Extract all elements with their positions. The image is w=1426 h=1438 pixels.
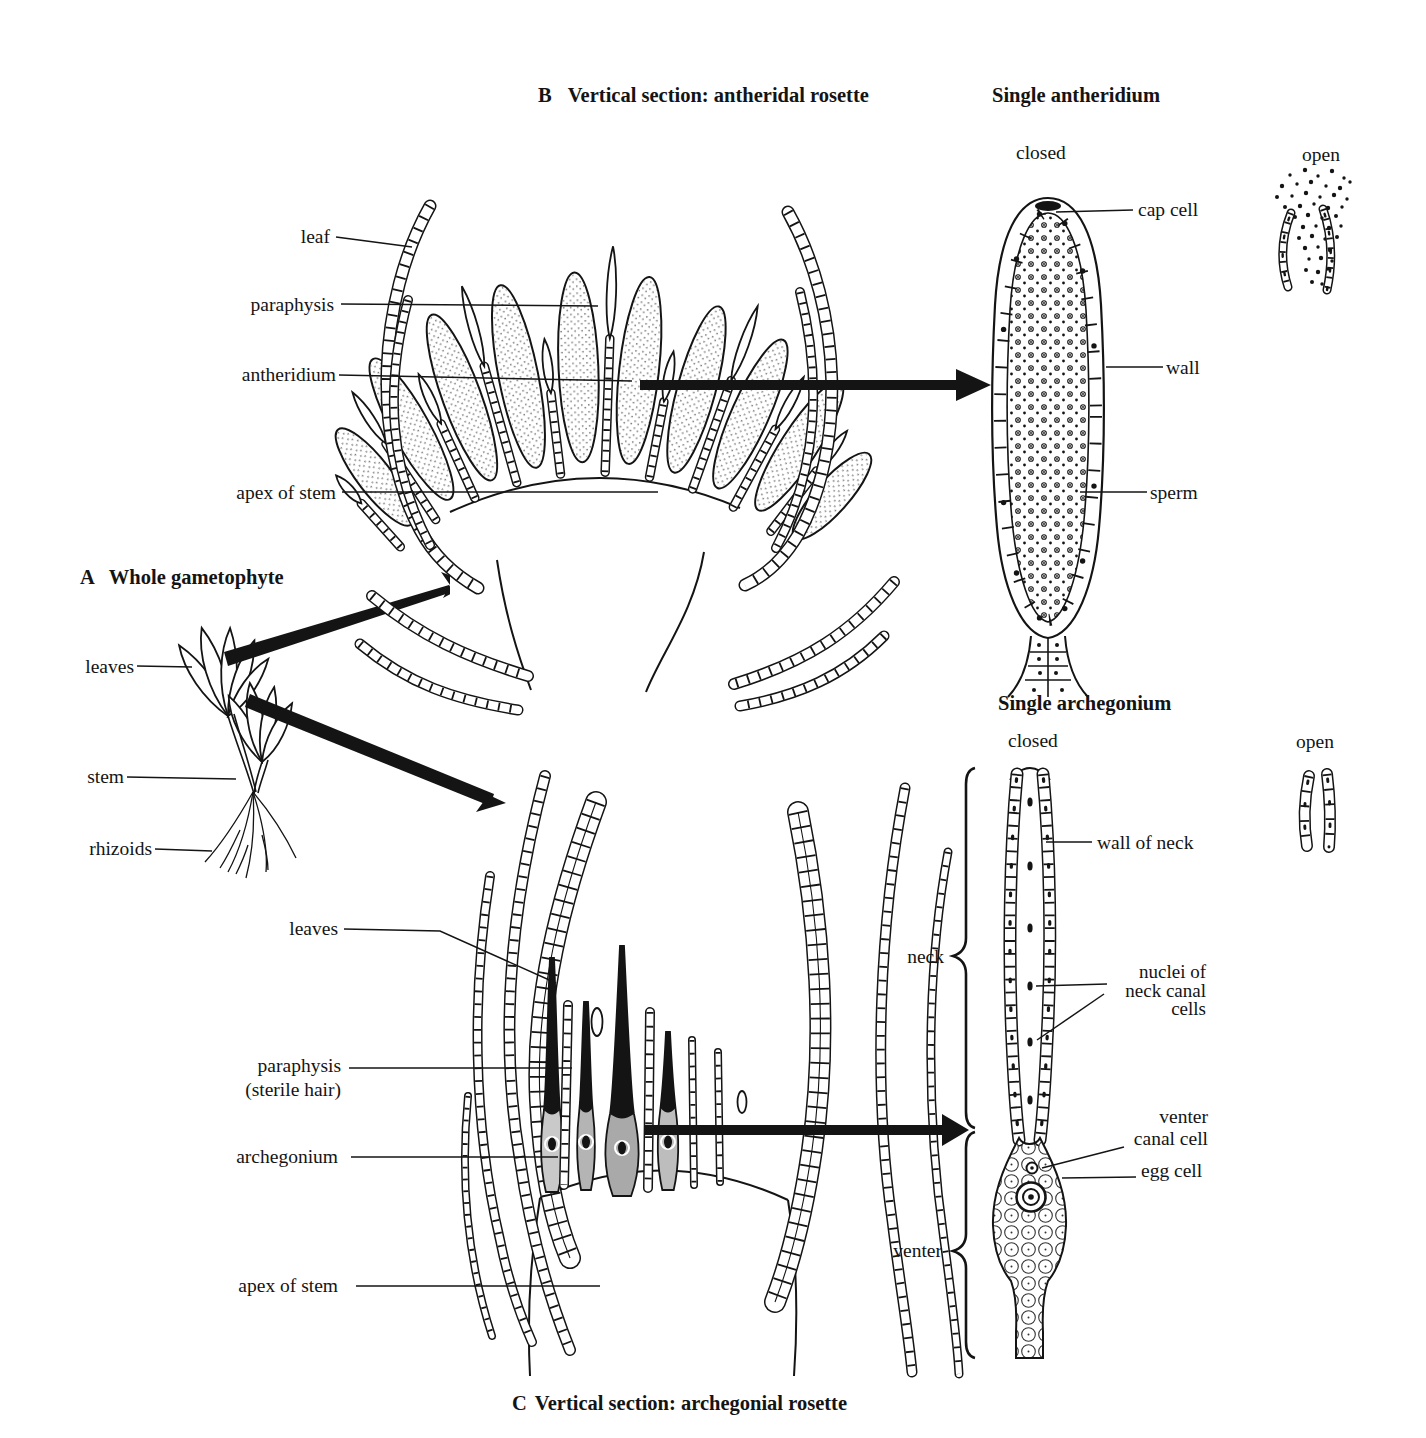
venter-canal-cell-label: venter canal cell [1008, 1106, 1208, 1149]
panel-b-letter: B [538, 83, 552, 107]
paraphysis-b-label: paraphysis [134, 293, 334, 316]
antheridium-closed-drawing [992, 198, 1104, 697]
sperm-label: sperm [1150, 481, 1198, 504]
antheridium-label: antheridium [136, 363, 336, 386]
archegonium-panel-title: Single archegonium [998, 691, 1171, 715]
antheridial-rosette-drawing [325, 206, 894, 710]
paraphysis-c-label: paraphysis (sterile hair) [141, 1054, 341, 1102]
archegonium-closed-drawing [993, 768, 1066, 1358]
panel-a-title: AWhole gametophyte [80, 565, 284, 589]
leaves-a-label: leaves [14, 655, 134, 678]
panel-a-letter: A [80, 565, 95, 589]
antheridium-open-drawing [1275, 168, 1352, 290]
archegonial-rosette-drawing [465, 776, 959, 1378]
wall-of-neck-label: wall of neck [1097, 831, 1193, 854]
antheridium-closed-label: closed [1016, 141, 1066, 164]
venter-label: venter [842, 1239, 942, 1262]
neck-label: neck [844, 945, 944, 968]
rhizoids-label: rhizoids [32, 837, 152, 860]
antheridium-panel-title: Single antheridium [992, 83, 1160, 107]
arrow-plant-to-c [245, 694, 506, 812]
moss-gametophyte-illustration [0, 0, 1426, 1438]
neck-venter-braces [953, 768, 975, 1358]
egg-cell-label: egg cell [1141, 1159, 1202, 1182]
archegonium-closed-label: closed [1008, 729, 1058, 752]
archegonium-c-label: archegonium [138, 1145, 338, 1168]
botany-figure-page: BVertical section: antheridal rosette Si… [0, 0, 1426, 1438]
archegonium-open-label: open [1296, 730, 1334, 753]
wall-label: wall [1166, 356, 1200, 379]
stem-label: stem [4, 765, 124, 788]
panel-c-letter: C [512, 1391, 527, 1415]
panel-b-title: BVertical section: antheridal rosette [538, 83, 869, 107]
apex-of-stem-c-label: apex of stem [138, 1274, 338, 1297]
leaves-c-label: leaves [138, 917, 338, 940]
antheridium-open-label: open [1302, 143, 1340, 166]
cap-cell-label: cap cell [1138, 198, 1198, 221]
apex-of-stem-b-label: apex of stem [136, 481, 336, 504]
panel-c-title: CVertical section: archegonial rosette [512, 1391, 847, 1415]
archegonium-open-drawing [1305, 774, 1331, 847]
leaf-label: leaf [130, 225, 330, 248]
nuclei-of-neck-canal-cells-label: nuclei of neck canal cells [1006, 963, 1206, 1019]
